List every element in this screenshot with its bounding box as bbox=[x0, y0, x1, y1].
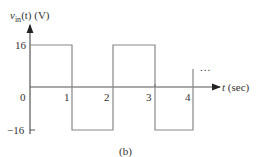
x-tick-label-0: 0 bbox=[20, 92, 26, 103]
y-tick-label-16: 16 bbox=[15, 40, 26, 51]
y-tick-label-neg16: −16 bbox=[7, 125, 24, 136]
y-axis-label: vin(t) (V) bbox=[10, 10, 50, 25]
x-label-unit: (sec) bbox=[228, 81, 249, 93]
y-label-rest: (t) (V) bbox=[21, 9, 49, 21]
x-tick-label-3: 3 bbox=[146, 92, 152, 103]
x-label-var: t bbox=[222, 81, 225, 93]
x-tick-label-2: 2 bbox=[104, 92, 110, 103]
x-axis-label: t (sec) bbox=[222, 82, 249, 93]
x-tick-label-4: 4 bbox=[185, 92, 191, 103]
continuation-ellipsis: ... bbox=[200, 62, 211, 73]
figure-caption: (b) bbox=[119, 146, 132, 157]
x-tick-label-1: 1 bbox=[64, 92, 70, 103]
